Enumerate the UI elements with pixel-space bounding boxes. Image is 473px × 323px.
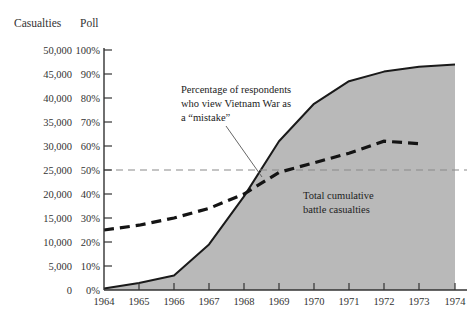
x-tick-label: 1972 bbox=[374, 296, 395, 307]
casualties-tick-labels: 50,000 45,000 40,000 35,000 30,000 25,00… bbox=[43, 45, 72, 296]
poll-tick-label: 70% bbox=[81, 117, 101, 128]
casualties-tick-label: 20,000 bbox=[43, 189, 72, 200]
x-tick-label: 1968 bbox=[234, 296, 255, 307]
x-tick-label: 1973 bbox=[409, 296, 430, 307]
chart-svg: Casualties Poll 50,000 45,000 40,000 35,… bbox=[0, 0, 473, 323]
right-axis-title: Poll bbox=[80, 17, 99, 29]
casualties-tick-label: 5,000 bbox=[48, 261, 72, 272]
poll-annotation-line3: a “mistake” bbox=[181, 112, 231, 123]
casualties-tick-label: 25,000 bbox=[43, 165, 72, 176]
casualties-tick-label: 30,000 bbox=[43, 141, 72, 152]
casualties-tick-label: 10,000 bbox=[43, 237, 72, 248]
poll-annotation-line1: Percentage of respondents bbox=[181, 84, 291, 95]
area-annotation-line1: Total cumulative bbox=[303, 190, 374, 201]
poll-tick-label: 0% bbox=[86, 285, 100, 296]
poll-tick-label: 10% bbox=[81, 261, 101, 272]
area-annotation-line2: battle casualties bbox=[303, 204, 370, 215]
x-tick-label: 1964 bbox=[94, 296, 116, 307]
poll-annotation-leader-line bbox=[226, 126, 262, 177]
poll-tick-label: 30% bbox=[81, 213, 101, 224]
casualties-tick-label: 15,000 bbox=[43, 213, 72, 224]
poll-tick-label: 20% bbox=[81, 237, 101, 248]
x-tick-label: 1967 bbox=[199, 296, 220, 307]
poll-annotation-line2: who view Vietnam War as bbox=[181, 98, 291, 109]
x-tick-labels: 1964 1965 1966 1967 1968 1969 1970 1971 … bbox=[94, 296, 467, 307]
x-tick-label: 1971 bbox=[339, 296, 360, 307]
x-tick-label: 1970 bbox=[304, 296, 325, 307]
poll-tick-label: 60% bbox=[81, 141, 101, 152]
left-axis-title: Casualties bbox=[14, 17, 62, 29]
poll-tick-labels: 100% 90% 80% 70% 60% 50% 40% 30% 20% 10%… bbox=[76, 45, 101, 296]
casualties-tick-label: 35,000 bbox=[43, 117, 72, 128]
poll-tick-label: 40% bbox=[81, 189, 101, 200]
x-tick-label: 1966 bbox=[164, 296, 185, 307]
casualties-tick-label: 50,000 bbox=[43, 45, 72, 56]
vietnam-casualties-poll-chart: Casualties Poll 50,000 45,000 40,000 35,… bbox=[0, 0, 473, 323]
poll-tick-label: 80% bbox=[81, 93, 101, 104]
x-tick-label: 1965 bbox=[129, 296, 150, 307]
poll-tick-label: 50% bbox=[81, 165, 101, 176]
poll-tick-label: 100% bbox=[76, 45, 101, 56]
casualties-tick-label: 0 bbox=[67, 285, 72, 296]
casualties-tick-label: 40,000 bbox=[43, 93, 72, 104]
poll-tick-label: 90% bbox=[81, 69, 101, 80]
casualties-tick-label: 45,000 bbox=[43, 69, 72, 80]
x-tick-label: 1969 bbox=[269, 296, 290, 307]
x-tick-label: 1974 bbox=[445, 296, 467, 307]
y-tick-marks bbox=[104, 50, 112, 266]
